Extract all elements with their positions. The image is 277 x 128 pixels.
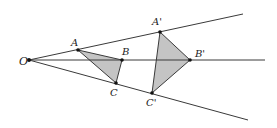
ray-through-a [29, 14, 243, 60]
label-a: A [70, 37, 78, 48]
label-o: O [19, 55, 28, 68]
triangle-abc [78, 50, 122, 83]
point-a [76, 48, 80, 52]
triangle-a-prime-b-prime-c-prime [152, 32, 190, 93]
point-a-prime [158, 30, 162, 34]
point-b-prime [188, 58, 192, 62]
label-a-prime: A' [151, 16, 162, 27]
point-c [114, 81, 118, 85]
point-b [120, 58, 124, 62]
label-c-prime: C' [146, 97, 156, 108]
label-b: B [121, 46, 129, 57]
point-c-prime [150, 91, 154, 95]
ray-through-c [29, 60, 248, 120]
diagram-canvas: O A B C A' B' C' [0, 0, 277, 128]
label-b-prime: B' [194, 48, 205, 59]
label-c: C [110, 87, 118, 98]
dilation-diagram: O A B C A' B' C' [0, 0, 277, 128]
